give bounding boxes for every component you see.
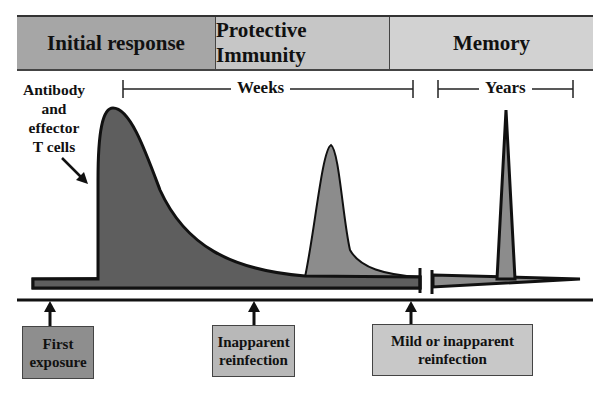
event-label-line: reinfection: [391, 350, 514, 368]
label-line: and: [14, 99, 94, 118]
axis-break: [420, 268, 432, 294]
event-label-line: exposure: [29, 353, 86, 371]
event-label-line: Mild or inapparent: [391, 332, 514, 350]
label-line: Antibody: [14, 80, 94, 99]
weeks-label: Weeks: [231, 78, 290, 98]
antibody-effector-label: Antibody and effector T cells: [14, 80, 94, 156]
event-label-line: reinfection: [217, 351, 289, 369]
event-arrow-first-exposure: [44, 301, 56, 326]
label-line: effector: [14, 118, 94, 137]
event-box-first-exposure: First exposure: [22, 326, 94, 379]
event-label-line: Inapparent: [217, 333, 289, 351]
event-arrow-inapparent-reinfection: [248, 301, 260, 325]
label-line: T cells: [14, 137, 94, 156]
event-arrow-mild-reinfection: [405, 301, 417, 324]
event-box-mild-reinfection: Mild or inapparent reinfection: [372, 324, 533, 376]
years-label: Years: [479, 78, 532, 98]
secondary-peak: [305, 145, 420, 277]
event-box-inapparent-reinfection: Inapparent reinfection: [212, 325, 295, 377]
memory-spike: [497, 110, 515, 279]
label-pointer-arrow: [62, 158, 88, 184]
event-label-line: First: [29, 335, 86, 353]
